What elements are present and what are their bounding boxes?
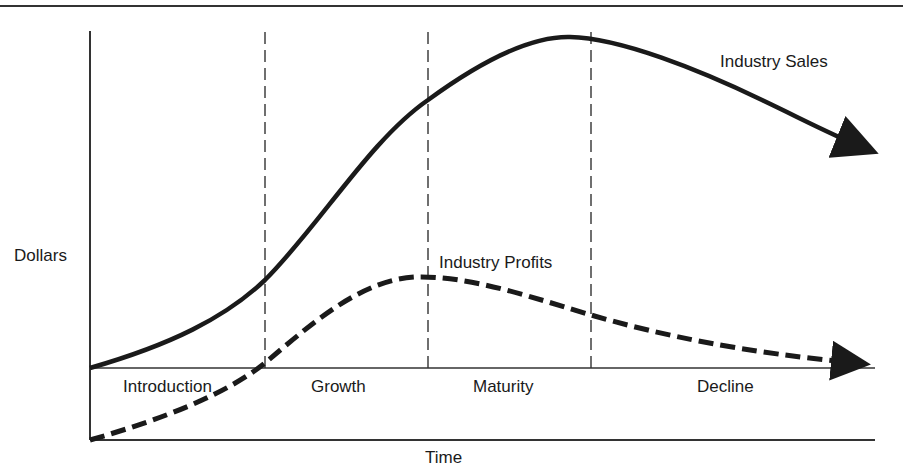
stage-label-growth: Growth [311,378,366,395]
y-axis-label: Dollars [14,247,67,264]
stage-label-decline: Decline [697,378,754,395]
product-life-cycle-chart [0,0,903,475]
industry-sales-curve [90,37,862,368]
series-label-industry-profits: Industry Profits [439,254,552,271]
stage-label-maturity: Maturity [473,378,533,395]
stage-label-introduction: Introduction [123,378,212,395]
industry-profits-curve [90,277,856,440]
series-label-industry-sales: Industry Sales [720,53,828,70]
x-axis-label: Time [425,449,462,466]
